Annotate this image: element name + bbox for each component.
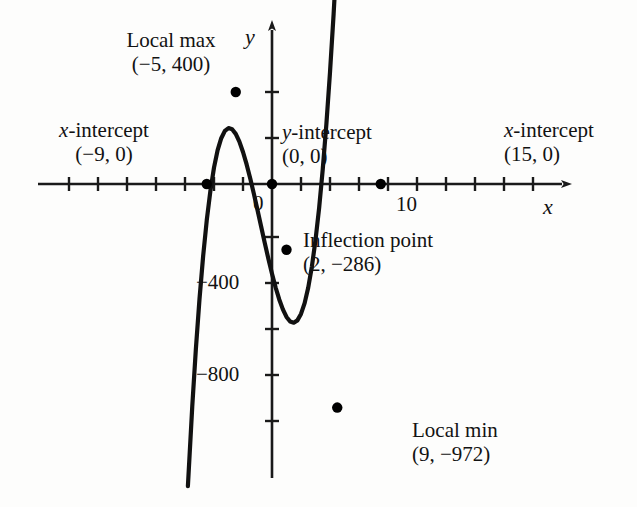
y-intercept-line2: (0, 0): [282, 144, 372, 168]
local-max-line1: Local max: [126, 28, 215, 52]
y-variable-glyph: y: [282, 120, 291, 144]
x-variable-glyph-right: x: [504, 118, 513, 142]
y-axis-label: y: [245, 24, 255, 50]
x-tick-label-10: 10: [396, 192, 417, 217]
annotation-local-max: Local max (−5, 400): [86, 28, 256, 77]
data-point-local-max: [231, 87, 241, 97]
data-point-x-intercept-right: [376, 179, 386, 189]
x-axis-label: x: [543, 194, 553, 220]
x-intercept-left-suffix: -intercept: [68, 118, 148, 142]
origin-label: 0: [253, 191, 264, 216]
y-intercept-line1: y-intercept: [282, 120, 372, 144]
inflection-line2: (2, −286): [303, 252, 433, 276]
x-intercept-right-line1: x-intercept: [504, 118, 594, 142]
local-max-line2: (−5, 400): [86, 52, 256, 76]
graph-figure: Local max (−5, 400) x-intercept (−9, 0) …: [0, 0, 637, 507]
data-point-y-intercept: [267, 179, 277, 189]
x-intercept-right-line2: (15, 0): [504, 142, 594, 166]
data-point-inflection-point: [281, 245, 291, 255]
x-intercept-left-line2: (−9, 0): [24, 142, 184, 166]
annotation-x-intercept-right: x-intercept (15, 0): [504, 118, 594, 167]
annotation-x-intercept-left: x-intercept (−9, 0): [24, 118, 184, 167]
x-intercept-right-suffix: -intercept: [513, 118, 593, 142]
local-min-line1: Local min: [412, 418, 498, 442]
data-point-x-intercept-left: [202, 179, 212, 189]
y-tick-label-neg800: −800: [196, 362, 239, 387]
x-intercept-left-line1: x-intercept: [59, 118, 149, 142]
y-intercept-suffix: -intercept: [291, 120, 371, 144]
annotation-inflection-point: Inflection point (2, −286): [303, 228, 433, 277]
y-tick-label-neg400: −400: [196, 270, 239, 295]
x-axis: [38, 177, 562, 191]
data-point-local-min: [332, 402, 342, 412]
local-min-line2: (9, −972): [412, 442, 498, 466]
annotation-y-intercept: y-intercept (0, 0): [282, 120, 372, 169]
annotation-local-min: Local min (9, −972): [412, 418, 498, 467]
inflection-line1: Inflection point: [303, 228, 433, 252]
